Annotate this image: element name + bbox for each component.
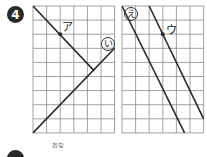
point-on-line-ウ [161, 32, 165, 36]
label-u: ウ [166, 25, 177, 36]
left-grid [33, 6, 115, 133]
next-problem-fragment: おな [52, 140, 64, 149]
line-ア [33, 6, 94, 71]
label-i: い [101, 37, 115, 51]
label-e: え [124, 7, 138, 21]
right-grid [122, 6, 204, 133]
label-a: ア [62, 22, 73, 33]
